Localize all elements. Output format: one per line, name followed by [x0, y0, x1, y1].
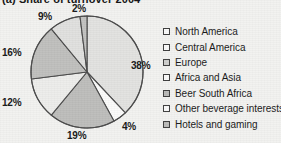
slice-label-other-beverage-interests: 9%	[38, 11, 52, 22]
legend-swatch-icon	[163, 59, 170, 66]
legend-item-label: Central America	[175, 42, 245, 53]
slice-label-europe: 19%	[67, 130, 86, 141]
legend-item[interactable]: Central America	[163, 39, 281, 54]
legend-item[interactable]: North America	[163, 24, 281, 39]
legend-item[interactable]: Beer South Africa	[163, 86, 281, 101]
pie-slices	[31, 16, 143, 128]
legend-swatch-icon	[163, 105, 170, 112]
pie-chart	[30, 15, 144, 129]
legend-item-label: Other beverage interests	[175, 103, 281, 114]
legend-item[interactable]: Africa and Asia	[163, 70, 281, 85]
legend-swatch-icon	[163, 90, 170, 97]
legend-swatch-icon	[163, 28, 170, 35]
legend-swatch-icon	[163, 44, 170, 51]
legend: North AmericaCentral AmericaEuropeAfrica…	[163, 24, 281, 132]
slice-label-africa-and-asia: 12%	[2, 97, 21, 108]
legend-item-label: Beer South Africa	[175, 88, 252, 99]
legend-item-label: Europe	[175, 57, 207, 68]
legend-item[interactable]: Other beverage interests	[163, 101, 281, 116]
legend-swatch-icon	[163, 74, 170, 81]
legend-swatch-icon	[163, 121, 170, 128]
legend-item-label: North America	[175, 26, 238, 37]
legend-item-label: Africa and Asia	[175, 72, 241, 83]
slice-label-hotels-and-gaming: 2%	[72, 3, 86, 14]
pie-chart-svg	[30, 15, 144, 129]
pie-chart-figure: (a) Share of turnover 2004 38% 4% 19% 12…	[0, 0, 281, 143]
legend-item[interactable]: Europe	[163, 55, 281, 70]
slice-label-central-america: 4%	[122, 121, 136, 132]
slice-label-beer-south-africa: 16%	[2, 47, 21, 58]
slice-label-north-america: 38%	[131, 60, 150, 71]
legend-item[interactable]: Hotels and gaming	[163, 116, 281, 131]
legend-item-label: Hotels and gaming	[175, 119, 258, 130]
